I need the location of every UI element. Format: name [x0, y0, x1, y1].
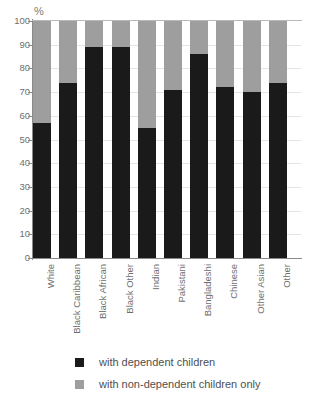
bar-segment-dependent-children[interactable]	[85, 47, 103, 258]
y-axis-tick-mark	[28, 163, 32, 164]
bar-segment-dependent-children[interactable]	[243, 92, 261, 258]
y-axis-tick-mark	[28, 92, 32, 93]
bar-segment-dependent-children[interactable]	[216, 87, 234, 258]
legend-color-swatch	[75, 358, 84, 367]
x-axis-category-label: Black African	[98, 264, 108, 319]
bar-group[interactable]	[33, 21, 51, 258]
bar-segment-non-dependent-children[interactable]	[243, 21, 261, 92]
y-axis-tick-mark	[28, 211, 32, 212]
bar-segment-dependent-children[interactable]	[269, 83, 287, 258]
y-axis-tick-mark	[28, 68, 32, 69]
bar-group[interactable]	[269, 21, 287, 258]
legend-color-swatch	[75, 380, 84, 389]
bar-group[interactable]	[138, 21, 156, 258]
bar-group[interactable]	[112, 21, 130, 258]
bar-segment-non-dependent-children[interactable]	[59, 21, 77, 83]
y-axis-tick-mark	[28, 234, 32, 235]
legend-item-label: with dependent children	[99, 355, 215, 369]
bar-segment-non-dependent-children[interactable]	[269, 21, 287, 83]
y-axis-tick-label: 30	[0, 182, 30, 192]
plot-area	[33, 21, 301, 258]
y-axis-tick-mark	[28, 45, 32, 46]
y-axis-tick-mark	[28, 140, 32, 141]
bar-segment-non-dependent-children[interactable]	[138, 21, 156, 128]
y-axis-tick-label: 40	[0, 158, 30, 168]
y-axis-tick-mark	[28, 187, 32, 188]
bar-segment-non-dependent-children[interactable]	[216, 21, 234, 87]
y-axis-tick-label: 10	[0, 229, 30, 239]
x-axis-category-label: Black Caribbean	[72, 264, 82, 334]
y-axis-tick-mark	[28, 258, 32, 259]
stacked-bar-chart: % 1009080706050403020100 WhiteBlack Cari…	[0, 0, 315, 399]
y-axis-tick-label: 50	[0, 135, 30, 145]
bar-segment-dependent-children[interactable]	[164, 90, 182, 258]
bar-segment-non-dependent-children[interactable]	[85, 21, 103, 47]
x-axis-category-label: Chinese	[229, 264, 239, 299]
bar-segment-non-dependent-children[interactable]	[33, 21, 51, 123]
x-axis-category-label: Black Other	[125, 264, 135, 314]
bar-segment-dependent-children[interactable]	[33, 123, 51, 258]
bar-segment-non-dependent-children[interactable]	[190, 21, 208, 54]
bar-group[interactable]	[190, 21, 208, 258]
x-axis-line	[32, 258, 302, 259]
x-axis-category-label: White	[46, 264, 56, 288]
y-axis-tick-mark	[28, 21, 32, 22]
bar-group[interactable]	[216, 21, 234, 258]
bar-segment-dependent-children[interactable]	[112, 47, 130, 258]
y-axis-tick-label: 0	[0, 253, 30, 263]
bar-group[interactable]	[85, 21, 103, 258]
y-axis-unit-label: %	[34, 5, 44, 17]
x-axis-category-label: Other Asian	[256, 264, 266, 314]
x-axis-category-label: Pakistani	[177, 264, 187, 303]
y-axis-tick-label: 90	[0, 40, 30, 50]
bar-segment-non-dependent-children[interactable]	[164, 21, 182, 90]
y-axis-tick-label: 60	[0, 111, 30, 121]
y-axis-tick-mark	[28, 116, 32, 117]
bar-segment-non-dependent-children[interactable]	[112, 21, 130, 47]
x-axis-category-label: Bangladeshi	[203, 264, 213, 316]
bar-segment-dependent-children[interactable]	[190, 54, 208, 258]
y-axis-tick-label: 80	[0, 63, 30, 73]
bar-group[interactable]	[164, 21, 182, 258]
x-axis-category-label: Other	[282, 264, 292, 288]
bar-segment-dependent-children[interactable]	[59, 83, 77, 258]
x-axis-category-label: Indian	[151, 264, 161, 290]
y-axis-tick-label: 100	[0, 16, 30, 26]
bar-group[interactable]	[59, 21, 77, 258]
legend-item-label: with non-dependent children only	[99, 377, 260, 391]
y-axis-tick-label: 70	[0, 87, 30, 97]
bar-group[interactable]	[243, 21, 261, 258]
bar-segment-dependent-children[interactable]	[138, 128, 156, 258]
y-axis-tick-label: 20	[0, 206, 30, 216]
